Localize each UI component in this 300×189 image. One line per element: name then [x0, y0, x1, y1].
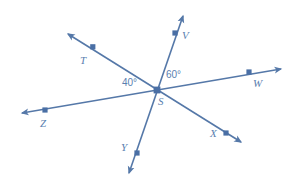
diagram-canvas: [0, 0, 300, 189]
point-marker-v: [172, 30, 177, 35]
point-markers-group: [42, 30, 251, 155]
point-marker-w: [246, 69, 251, 74]
point-marker-z: [42, 107, 47, 112]
point-label-w: W: [253, 78, 262, 89]
point-label-z: Z: [40, 118, 46, 129]
point-marker-x: [223, 130, 228, 135]
point-label-t: T: [80, 55, 86, 66]
lines-group: [22, 16, 281, 173]
point-marker-t: [90, 44, 95, 49]
geometry-diagram-figure: T V W X Y Z S 40° 60°: [0, 0, 300, 189]
point-label-y: Y: [121, 142, 127, 153]
point-marker-s: [154, 87, 161, 94]
point-marker-y: [134, 150, 139, 155]
point-label-s: S: [158, 96, 164, 107]
point-label-v: V: [182, 30, 189, 41]
angle-label-60: 60°: [166, 70, 181, 80]
point-label-x: X: [210, 128, 217, 139]
angle-label-40: 40°: [122, 78, 137, 88]
line-v-y: [129, 16, 183, 173]
